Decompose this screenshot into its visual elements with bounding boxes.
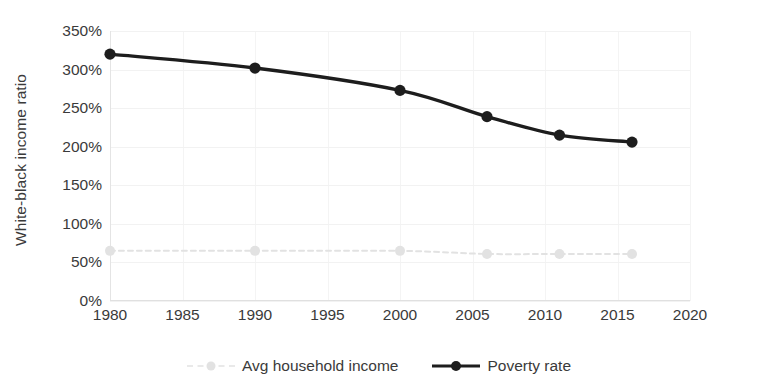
x-axis-tick-label: 1990 — [238, 306, 272, 324]
y-axis-tick-label: 50% — [34, 253, 102, 271]
legend-label: Avg household income — [242, 357, 399, 375]
series-layer — [110, 31, 690, 301]
series-line — [110, 251, 632, 255]
data-point-marker — [555, 249, 565, 259]
x-axis-tick-label: 1995 — [310, 306, 344, 324]
x-axis-tick-label: 2000 — [383, 306, 417, 324]
line-chart: White-black income ratio 0%50%100%150%20… — [0, 0, 758, 388]
data-point-marker — [482, 249, 492, 259]
data-point-marker — [554, 130, 565, 141]
x-axis-tick-label: 2015 — [600, 306, 634, 324]
dashed-line-marker-icon — [187, 359, 235, 373]
x-axis-tick-label: 1980 — [93, 306, 127, 324]
data-point-marker — [249, 62, 260, 73]
y-axis-tick-label: 200% — [34, 138, 102, 156]
x-axis-tick-label: 2010 — [528, 306, 562, 324]
data-point-marker — [394, 85, 405, 96]
legend-label: Poverty rate — [487, 357, 571, 375]
series-2 — [104, 49, 637, 148]
x-axis-tick-label: 2005 — [455, 306, 489, 324]
y-axis-title: White-black income ratio — [8, 10, 34, 310]
legend-marker — [451, 361, 461, 371]
data-point-marker — [481, 111, 492, 122]
chart-legend: Avg household incomePoverty rate — [0, 352, 758, 380]
data-point-marker — [395, 246, 405, 256]
series-1 — [105, 246, 637, 259]
data-point-marker — [105, 246, 115, 256]
vertical-gridline — [690, 31, 691, 301]
plot-area — [110, 31, 690, 301]
legend-marker — [206, 362, 215, 371]
y-axis-tick-label: 350% — [34, 22, 102, 40]
horizontal-gridline — [110, 301, 690, 302]
y-axis-tick-labels: 0%50%100%150%200%250%300%350% — [34, 0, 102, 388]
x-axis-tick-label: 2020 — [673, 306, 707, 324]
solid-line-marker-icon — [432, 359, 480, 373]
data-point-marker — [626, 136, 637, 147]
y-axis-tick-label: 250% — [34, 99, 102, 117]
legend-item[interactable]: Poverty rate — [432, 357, 571, 375]
y-axis-tick-label: 300% — [34, 61, 102, 79]
y-axis-tick-label: 150% — [34, 176, 102, 194]
data-point-marker — [250, 246, 260, 256]
data-point-marker — [104, 49, 115, 60]
series-line — [110, 54, 632, 142]
y-axis-tick-label: 100% — [34, 215, 102, 233]
legend-item[interactable]: Avg household income — [187, 357, 399, 375]
x-axis-tick-labels: 198019851990199520002005201020152020 — [110, 306, 690, 330]
data-point-marker — [627, 249, 637, 259]
x-axis-tick-label: 1985 — [165, 306, 199, 324]
